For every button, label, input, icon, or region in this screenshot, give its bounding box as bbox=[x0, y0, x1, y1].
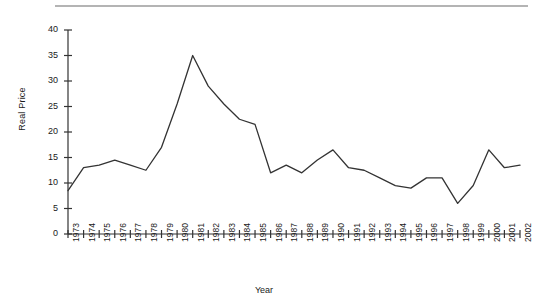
x-axis-tick-label: 1994 bbox=[399, 223, 408, 242]
x-axis-tick-label: 1984 bbox=[243, 223, 252, 242]
x-axis-tick-label: 1978 bbox=[150, 223, 159, 242]
y-axis-title: Real Price bbox=[17, 69, 27, 149]
x-axis-tick-label: 1981 bbox=[197, 223, 206, 242]
y-axis-tick-label: 0 bbox=[36, 229, 58, 238]
y-axis-tick-label: 35 bbox=[36, 51, 58, 60]
x-axis-tick-label: 1977 bbox=[134, 223, 143, 242]
x-axis-tick-label: 1991 bbox=[353, 223, 362, 242]
y-axis-tick-label: 20 bbox=[36, 127, 58, 136]
x-axis-tick-label: 1988 bbox=[306, 223, 315, 242]
x-axis-tick-label: 1989 bbox=[321, 223, 330, 242]
x-axis-tick-label: 1996 bbox=[430, 223, 439, 242]
x-axis-tick-label: 1980 bbox=[181, 223, 190, 242]
x-axis-tick-label: 1975 bbox=[103, 223, 112, 242]
x-axis-tick-label: 1992 bbox=[368, 223, 377, 242]
x-axis-tick-label: 1997 bbox=[446, 223, 455, 242]
axis-lines bbox=[68, 30, 520, 234]
x-axis-tick-label: 1983 bbox=[228, 223, 237, 242]
x-axis-tick-label: 1982 bbox=[212, 223, 221, 242]
y-axis-tick-label: 30 bbox=[36, 76, 58, 85]
x-axis-tick-label: 1987 bbox=[290, 223, 299, 242]
x-axis-tick-label: 2001 bbox=[508, 223, 517, 242]
x-axis-title: Year bbox=[0, 285, 528, 295]
x-axis-tick-label: 1993 bbox=[384, 223, 393, 242]
x-axis-tick-label: 1998 bbox=[462, 223, 471, 242]
x-axis-tick-label: 1979 bbox=[166, 223, 175, 242]
x-axis-tick-label: 2002 bbox=[524, 223, 533, 242]
x-axis-tick-label: 1999 bbox=[477, 223, 486, 242]
y-axis-tick-label: 5 bbox=[36, 204, 58, 213]
y-axis-tick-label: 40 bbox=[36, 25, 58, 34]
y-axis-tick-label: 15 bbox=[36, 153, 58, 162]
x-axis-tick-label: 2000 bbox=[493, 223, 502, 242]
x-axis-tick-label: 1976 bbox=[119, 223, 128, 242]
x-axis-tick-label: 1974 bbox=[88, 223, 97, 242]
x-axis-tick-label: 1973 bbox=[72, 223, 81, 242]
data-series-line bbox=[68, 56, 520, 204]
x-axis-tick-label: 1990 bbox=[337, 223, 346, 242]
x-axis-tick-label: 1995 bbox=[415, 223, 424, 242]
y-axis-tick-label: 25 bbox=[36, 102, 58, 111]
y-axis-tick-label: 10 bbox=[36, 178, 58, 187]
x-axis-tick-label: 1985 bbox=[259, 223, 268, 242]
top-divider-rule bbox=[55, 5, 528, 7]
x-axis-tick-label: 1986 bbox=[275, 223, 284, 242]
